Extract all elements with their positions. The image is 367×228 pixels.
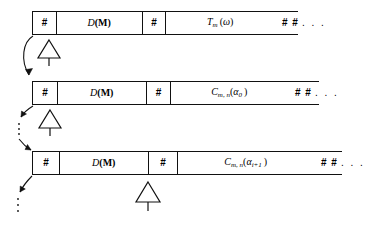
hash-ellipsis-cell: # #. . .: [275, 11, 335, 35]
hash-cell: #: [33, 12, 57, 34]
payload-base: C: [211, 86, 218, 97]
dm-cell: D(M): [57, 12, 143, 34]
ellipsis: . . .: [338, 158, 365, 168]
hash-pair: # #: [295, 88, 312, 98]
payload-cell: Cm, n(α0 ): [171, 82, 287, 104]
payload-expression: Tm (ω): [207, 17, 233, 29]
payload-base: C: [224, 156, 231, 167]
payload-arg: (αi+1 ): [243, 156, 267, 167]
omega-symbol: ω: [223, 16, 230, 27]
hash-cell: #: [33, 82, 58, 104]
dm-bold-m: (M): [95, 18, 111, 28]
antenna-triangle-2: [39, 110, 61, 136]
antenna-triangle-1: [38, 40, 60, 66]
arrow-row2-down: [21, 106, 33, 117]
ellipsis: . . .: [312, 88, 339, 98]
hash-cell-2: #: [147, 82, 172, 104]
frame-row-2-boxes: # D(M) # Cm, n(α0 ): [32, 81, 287, 105]
dm-cell: D(M): [60, 152, 149, 174]
payload-arg: (α0 ): [230, 86, 247, 97]
antenna-triangle-3: [136, 182, 160, 211]
payload-expression: Cm, n(α0 ): [211, 87, 247, 99]
hash-cell-2: #: [149, 152, 179, 174]
hash-ellipsis-cell: # #. . .: [288, 81, 350, 105]
dots-between-row2-row3: [18, 123, 20, 135]
payload-arg: (ω): [218, 16, 234, 27]
payload-subscript: m, n: [218, 91, 230, 99]
dm-bold-m: (M): [97, 88, 113, 98]
hash-pair: # #: [282, 18, 299, 28]
payload-cell: Tm (ω): [166, 12, 274, 34]
payload-expression: Cm, n(αi+1 ): [224, 157, 267, 169]
arrow-row1-to-row2: [24, 36, 33, 75]
dots-below-row3: [17, 198, 19, 212]
dm-cell: D(M): [58, 82, 147, 104]
dm-italic-d: D: [88, 18, 95, 28]
hash-cell: #: [33, 152, 60, 174]
payload-subscript: m, n: [231, 161, 243, 169]
alpha-subscript: i+1: [252, 161, 262, 169]
frame-row-1-boxes: # D(M) # Tm (ω): [32, 11, 274, 35]
dm-italic-d: D: [90, 88, 97, 98]
alpha-subscript: 0: [238, 91, 242, 99]
arrow-into-row3: [19, 139, 31, 150]
frame-row-3-boxes: # D(M) # Cm, n(αi+1 ): [32, 151, 313, 175]
hash-pair: # #: [321, 158, 338, 168]
ellipsis: . . .: [299, 18, 326, 28]
payload-cell: Cm, n(αi+1 ): [178, 152, 313, 174]
hash-cell-2: #: [143, 12, 167, 34]
arrow-row3-down: [20, 176, 32, 192]
dm-italic-d: D: [92, 158, 99, 168]
hash-ellipsis-cell: # #. . .: [314, 151, 367, 175]
dm-bold-m: (M): [99, 158, 115, 168]
